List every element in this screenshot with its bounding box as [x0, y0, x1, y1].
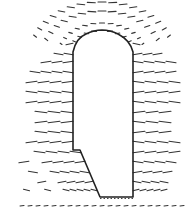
field-vector — [124, 206, 128, 207]
field-vector — [44, 206, 48, 207]
field-vector — [148, 206, 152, 207]
field-vector — [52, 206, 56, 207]
field-vector — [20, 206, 24, 207]
field-vector — [75, 28, 79, 29]
field-vector — [125, 28, 129, 29]
field-vector — [84, 206, 88, 207]
field-vector — [108, 206, 112, 207]
field-vector — [76, 206, 80, 207]
background — [0, 0, 195, 219]
field-vector — [164, 206, 168, 207]
field-vector — [60, 206, 64, 207]
field-vector — [36, 206, 40, 207]
field-vector — [68, 206, 72, 207]
field-vector — [117, 25, 122, 26]
field-vector — [83, 25, 88, 26]
field-vector — [180, 206, 184, 207]
field-vector — [172, 206, 176, 207]
field-vector — [156, 206, 160, 207]
field-vector — [88, 11, 96, 12]
field-vector — [28, 206, 32, 207]
field-vector — [119, 4, 127, 5]
field-vector — [77, 4, 85, 5]
field-vector — [108, 11, 116, 12]
field-vector — [132, 206, 136, 207]
field-vector — [100, 206, 104, 207]
field-vector — [140, 206, 144, 207]
field-vector — [116, 206, 120, 207]
field-vector — [92, 206, 96, 207]
vector-field-figure — [0, 0, 195, 219]
